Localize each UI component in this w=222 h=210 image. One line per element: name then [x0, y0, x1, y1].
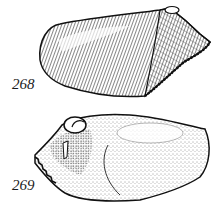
figure-label-268: 268 [12, 76, 35, 93]
shell-269-illustration [0, 105, 222, 210]
figure-269: 269 [0, 105, 222, 210]
figure-label-269: 269 [12, 177, 35, 194]
figure-268: 268 [0, 0, 222, 105]
